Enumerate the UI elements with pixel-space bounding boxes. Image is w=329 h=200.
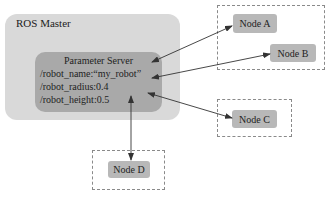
arrow-node-c	[148, 93, 232, 118]
connection-arrows	[0, 0, 329, 200]
arrow-node-a	[152, 26, 232, 62]
arrow-node-b	[152, 54, 270, 78]
